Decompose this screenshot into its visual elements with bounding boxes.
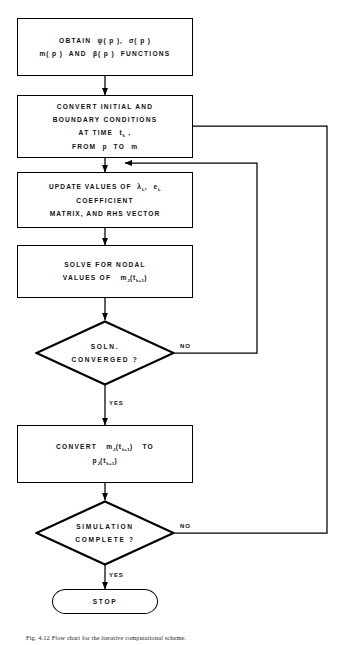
flowchart-canvas: OBTAIN ψ( p ), σ( p ) m( p ) AND β( p ) … <box>0 0 338 645</box>
edge-label-converged-yes: YES <box>109 400 124 406</box>
decision-soln-converged: SOLN. CONVERGED ? <box>35 320 175 386</box>
process-convert-m-to-p: CONVERT mJ(tk+1) TO pJ(tk+1) <box>17 425 193 483</box>
stop-label: STOP <box>93 595 118 608</box>
update-line-1: UPDATE VALUES OF λL, eL <box>49 180 161 194</box>
convert-line-4: FROM p TO m <box>72 140 138 153</box>
update-line-2: COEFFICIENT <box>76 194 134 207</box>
convert-mp-line-1: CONVERT mJ(tk+1) TO <box>56 440 154 454</box>
convert-mp-line-2: pJ(tk+1) <box>93 454 118 468</box>
process-obtain-functions: OBTAIN ψ( p ), σ( p ) m( p ) AND β( p ) … <box>17 18 193 76</box>
solve-line-1: SOLVE FOR NODAL <box>64 258 146 271</box>
decision-simulation-complete-label: SIMULATION COMPLETE ? <box>35 500 175 566</box>
terminator-stop: STOP <box>52 589 158 614</box>
decision-simulation-complete: SIMULATION COMPLETE ? <box>35 500 175 566</box>
simulation-line-1: SIMULATION <box>76 520 134 533</box>
obtain-line-2: m( p ) AND β( p ) FUNCTIONS <box>40 47 171 60</box>
edge-label-simulation-yes: YES <box>109 572 124 578</box>
update-line-3: MATRIX, AND RHS VECTOR <box>50 207 161 220</box>
edge-label-simulation-no: NO <box>180 523 191 529</box>
process-solve-nodal: SOLVE FOR NODAL VALUES OF mJ(tk+1) <box>17 245 193 298</box>
convert-line-2: BOUNDARY CONDITIONS <box>53 113 158 126</box>
convert-line-3: AT TIME tk , <box>79 126 132 140</box>
solve-line-2: VALUES OF mJ(tk+1) <box>63 271 148 285</box>
figure-caption: Fig. 4.12 Flow chart for the iterative c… <box>26 634 186 641</box>
decision-soln-converged-label: SOLN. CONVERGED ? <box>35 320 175 386</box>
converged-line-1: SOLN. <box>91 340 120 353</box>
converged-line-2: CONVERGED ? <box>71 353 138 366</box>
convert-line-1: CONVERT INITIAL AND <box>57 100 154 113</box>
process-convert-initial-boundary: CONVERT INITIAL AND BOUNDARY CONDITIONS … <box>17 95 193 158</box>
simulation-line-2: COMPLETE ? <box>75 533 135 546</box>
obtain-line-1: OBTAIN ψ( p ), σ( p ) <box>59 34 151 47</box>
process-update-values: UPDATE VALUES OF λL, eL COEFFICIENT MATR… <box>17 172 193 228</box>
edge-label-converged-no: NO <box>180 343 191 349</box>
